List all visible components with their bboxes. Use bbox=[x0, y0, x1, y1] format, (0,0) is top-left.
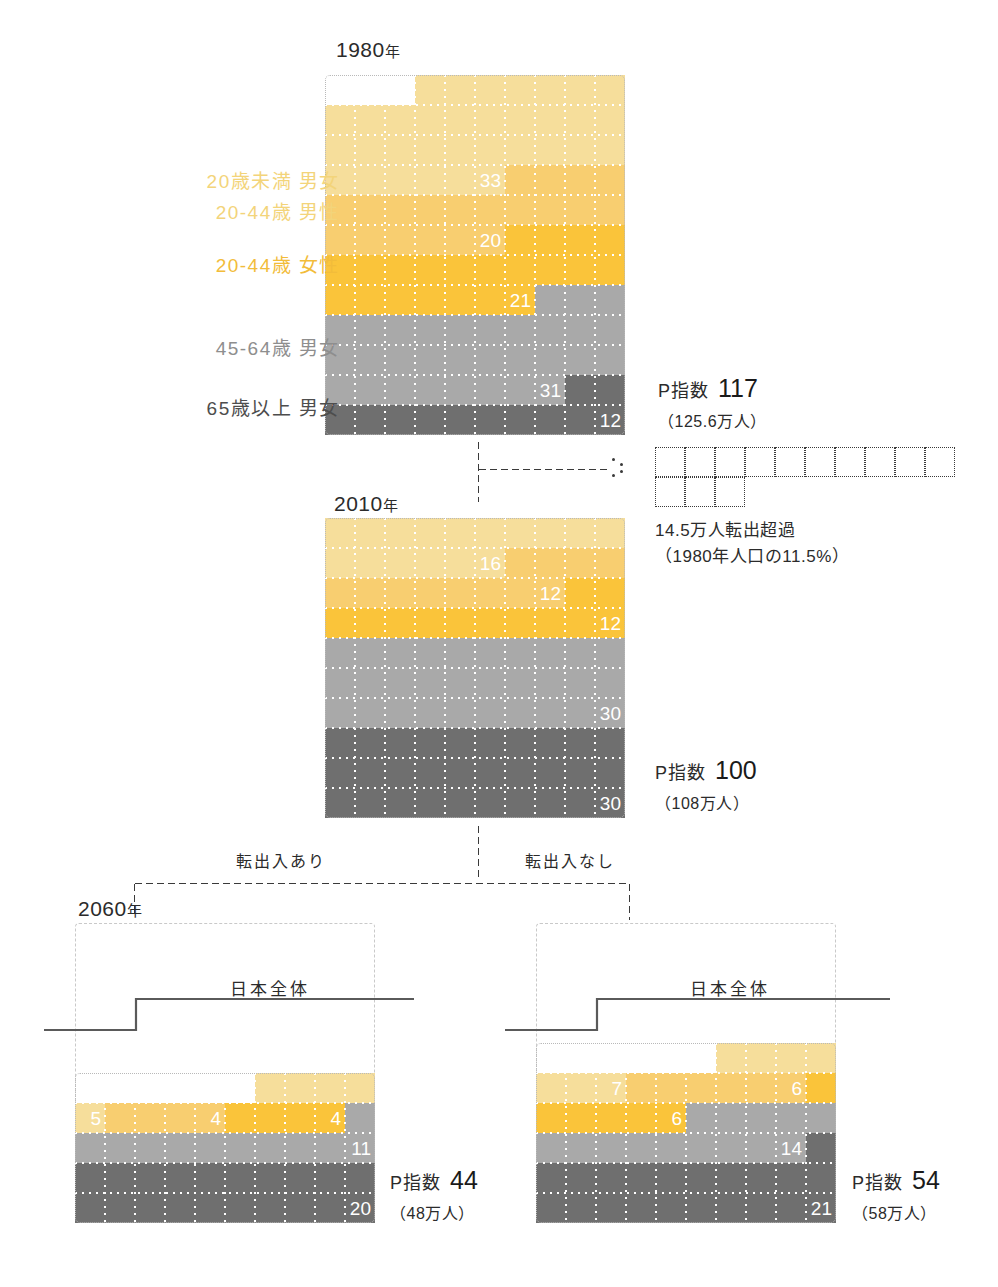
waffle-outline bbox=[325, 75, 625, 435]
waffle-value-label: 6 bbox=[791, 1079, 802, 1098]
legend-label-under20: 20歳未満 男女 bbox=[207, 171, 340, 192]
legend-label-a4564: 45-64歳 男女 bbox=[216, 338, 340, 359]
japan-line-label-left-text: 日本全体 bbox=[230, 980, 310, 999]
waffle-value-label: 31 bbox=[540, 381, 561, 400]
year-value-1980: 1980 bbox=[336, 38, 385, 61]
branch-label-without-migration: 転出入なし bbox=[525, 848, 615, 872]
waffle-value-label: 21 bbox=[510, 291, 531, 310]
legend-label-over65: 65歳以上 男女 bbox=[207, 398, 340, 419]
pindex-label-2010: P指数 bbox=[655, 763, 706, 783]
pindex-label-1980: P指数 bbox=[658, 381, 709, 401]
pindex-value-2010: 100 bbox=[715, 756, 757, 784]
outflow-ghost-cell bbox=[685, 447, 715, 477]
pindex-1980: P指数117 （125.6万人） bbox=[658, 374, 767, 432]
pindex-label-2060-right: P指数 bbox=[852, 1173, 903, 1193]
outflow-ghost-cell bbox=[715, 477, 745, 507]
legend-label-m2044: 20-44歳 男性 bbox=[216, 202, 340, 223]
year-label-2010: 2010年 bbox=[334, 492, 398, 516]
waffle-chart-2060-left: 5441120 bbox=[75, 1073, 375, 1223]
pindex-2060-right: P指数54 （58万人） bbox=[852, 1166, 940, 1224]
outflow-note: 14.5万人転出超過 （1980年人口の11.5%） bbox=[655, 518, 849, 571]
outflow-ghost-cell bbox=[715, 447, 745, 477]
year-value-2010: 2010 bbox=[334, 492, 383, 515]
waffle-outline bbox=[325, 518, 625, 818]
branch-label-right-text: 転出入なし bbox=[525, 853, 615, 870]
year-suffix-2010: 年 bbox=[383, 497, 399, 514]
waffle-value-label: 30 bbox=[600, 794, 621, 813]
year-label-2060: 2060年 bbox=[78, 897, 142, 921]
legend-item-a4564: 45-64歳 男女 bbox=[130, 333, 340, 360]
outflow-ghost-cell bbox=[805, 447, 835, 477]
waffle-value-label: 21 bbox=[811, 1199, 832, 1218]
connector-branch-right-vertical bbox=[628, 882, 630, 920]
connector-1980-horizontal bbox=[477, 468, 607, 470]
outflow-ghost-cell bbox=[745, 447, 775, 477]
japan-step-line-left bbox=[44, 985, 414, 1045]
waffle-value-label: 6 bbox=[671, 1109, 682, 1128]
waffle-outline bbox=[75, 1073, 375, 1223]
connector-arrow-dot-3 bbox=[612, 474, 615, 477]
waffle-value-label: 7 bbox=[611, 1079, 622, 1098]
waffle-chart-2010: 1612123030 bbox=[325, 518, 625, 818]
waffle-value-label: 14 bbox=[781, 1139, 802, 1158]
legend-item-f2044: 20-44歳 女性 bbox=[130, 250, 340, 277]
population-2060-left: （48万人） bbox=[390, 1200, 478, 1224]
legend-item-over65: 65歳以上 男女 bbox=[130, 393, 340, 420]
waffle-value-label: 12 bbox=[540, 584, 561, 603]
connector-arrow-dot-4 bbox=[620, 470, 623, 473]
year-value-2060: 2060 bbox=[78, 897, 127, 920]
waffle-value-label: 20 bbox=[350, 1199, 371, 1218]
outflow-note-line2: （1980年人口の11.5%） bbox=[655, 544, 849, 570]
outflow-ghost-cell bbox=[835, 447, 865, 477]
connector-arrow-dot-2 bbox=[620, 463, 623, 466]
branch-label-left-text: 転出入あり bbox=[236, 853, 326, 870]
waffle-value-label: 4 bbox=[330, 1109, 341, 1128]
connector-arrow-dot-1 bbox=[612, 458, 615, 461]
waffle-value-label: 5 bbox=[90, 1109, 101, 1128]
year-suffix-1980: 年 bbox=[385, 43, 401, 60]
japan-line-label-right-text: 日本全体 bbox=[690, 980, 770, 999]
pindex-value-1980: 117 bbox=[718, 374, 758, 402]
pindex-value-2060-left: 44 bbox=[450, 1166, 478, 1194]
population-2010: （108万人） bbox=[655, 790, 757, 814]
waffle-value-label: 30 bbox=[600, 704, 621, 723]
year-label-1980: 1980年 bbox=[336, 38, 400, 62]
branch-label-with-migration: 転出入あり bbox=[236, 848, 326, 872]
connector-branch-horizontal bbox=[133, 882, 629, 884]
outflow-ghost-cell bbox=[895, 447, 925, 477]
waffle-value-label: 11 bbox=[351, 1139, 371, 1158]
outflow-ghost-cell bbox=[775, 447, 805, 477]
waffle-value-label: 16 bbox=[480, 554, 501, 573]
japan-line-label-left: 日本全体 bbox=[230, 975, 310, 1000]
waffle-outline bbox=[536, 1043, 836, 1223]
pindex-label-2060-left: P指数 bbox=[390, 1173, 441, 1193]
pindex-2060-left: P指数44 （48万人） bbox=[390, 1166, 478, 1224]
waffle-chart-1980: 3320213112 bbox=[325, 75, 625, 435]
outflow-ghost-cell bbox=[655, 477, 685, 507]
legend-item-m2044: 20-44歳 男性 bbox=[130, 197, 340, 224]
year-suffix-2060: 年 bbox=[127, 902, 143, 919]
waffle-value-label: 33 bbox=[480, 171, 501, 190]
outflow-ghost-cell bbox=[685, 477, 715, 507]
legend-item-under20: 20歳未満 男女 bbox=[130, 166, 340, 193]
connector-1980-vertical bbox=[477, 440, 479, 502]
outflow-ghost-cell bbox=[655, 447, 685, 477]
waffle-value-label: 12 bbox=[600, 614, 621, 633]
waffle-value-label: 4 bbox=[210, 1109, 221, 1128]
legend-label-f2044: 20-44歳 女性 bbox=[216, 255, 340, 276]
japan-line-label-right: 日本全体 bbox=[690, 975, 770, 1000]
waffle-value-label: 20 bbox=[480, 231, 501, 250]
outflow-ghost-cell bbox=[925, 447, 955, 477]
population-1980: （125.6万人） bbox=[658, 408, 767, 432]
outflow-note-line1: 14.5万人転出超過 bbox=[655, 518, 849, 544]
waffle-value-label: 12 bbox=[600, 411, 621, 430]
outflow-ghost-cell bbox=[865, 447, 895, 477]
population-2060-right: （58万人） bbox=[852, 1200, 940, 1224]
pindex-value-2060-right: 54 bbox=[912, 1166, 940, 1194]
connector-2010-vertical bbox=[477, 824, 479, 880]
waffle-chart-2060-right: 7661421 bbox=[536, 1043, 836, 1223]
pindex-2010: P指数100 （108万人） bbox=[655, 756, 757, 814]
